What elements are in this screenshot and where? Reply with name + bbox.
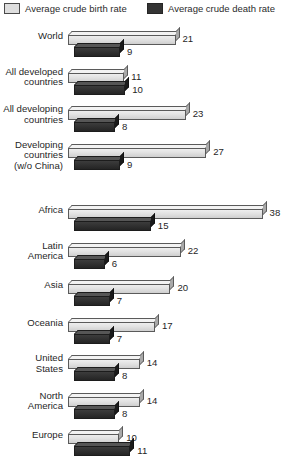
category-label: All developedcountries <box>0 67 63 89</box>
bar-face-face <box>74 259 105 269</box>
chart-legend: Average crude birth rate Average crude d… <box>0 0 289 22</box>
bar-face-face <box>74 85 125 95</box>
value-label-death-rate: 8 <box>122 371 127 381</box>
value-label-birth-rate: 38 <box>270 208 281 218</box>
bar-cap-face <box>206 140 210 154</box>
category-label: LatinAmerica <box>0 241 63 263</box>
bar-cap-face <box>186 102 190 116</box>
bar-chart-plot-area: World219All developedcountries1110All de… <box>0 22 289 424</box>
value-label-birth-rate: 27 <box>213 147 224 157</box>
value-label-birth-rate: 11 <box>131 72 141 82</box>
bar-cap-face <box>115 401 119 415</box>
chart-row: NorthAmerica148 <box>0 392 289 426</box>
chart-row: World219 <box>0 30 289 64</box>
value-label-birth-rate: 23 <box>193 109 204 119</box>
bar-cap-face <box>181 239 185 253</box>
bar-face-face <box>74 409 115 419</box>
category-label: Africa <box>0 205 63 216</box>
bar-face-face <box>74 47 120 57</box>
category-label-line: Africa <box>0 205 63 216</box>
chart-row: Asia207 <box>0 279 289 313</box>
category-label: World <box>0 31 63 42</box>
bar-death-rate <box>74 85 125 95</box>
category-label: Europe <box>0 430 63 441</box>
bar-cap-face <box>120 39 124 53</box>
bar-death-rate <box>74 47 120 57</box>
category-label-line: States <box>0 364 63 375</box>
value-label-birth-rate: 17 <box>162 321 173 331</box>
category-label: Asia <box>0 280 63 291</box>
legend-item-death-rate: Average crude death rate <box>147 3 275 14</box>
chart-row: LatinAmerica226 <box>0 242 289 276</box>
bar-death-rate <box>74 160 120 170</box>
bar-cap-face <box>110 326 114 340</box>
value-label-death-rate: 8 <box>122 409 127 419</box>
bar-cap-face <box>140 389 144 403</box>
chart-row: All developedcountries1110 <box>0 68 289 102</box>
value-label-death-rate: 15 <box>158 221 169 231</box>
legend-swatch-birth-rate-icon <box>4 3 20 14</box>
legend-item-birth-rate: Average crude birth rate <box>4 3 127 14</box>
chart-row: All developingcountries238 <box>0 105 289 139</box>
value-label-death-rate: 9 <box>127 47 132 57</box>
value-label-death-rate: 9 <box>127 160 132 170</box>
bar-death-rate <box>74 371 115 381</box>
category-label: Developingcountries(w/o China) <box>0 140 63 172</box>
bar-cap-face <box>119 426 123 440</box>
bar-cap-face <box>151 213 155 227</box>
value-label-death-rate: 7 <box>117 296 122 306</box>
chart-row: Europe1011 <box>0 429 289 460</box>
chart-row: UnitedStates148 <box>0 354 289 388</box>
bar-face-face <box>74 221 151 231</box>
bar-cap-face <box>140 351 144 365</box>
legend-swatch-death-rate-icon <box>147 3 163 14</box>
category-label-line: Oceania <box>0 318 63 329</box>
value-label-birth-rate: 22 <box>188 246 199 256</box>
category-label-line: Europe <box>0 430 63 441</box>
bar-death-rate <box>74 122 115 132</box>
bar-face-face <box>74 334 110 344</box>
bar-cap-face <box>115 363 119 377</box>
value-label-birth-rate: 21 <box>183 34 194 44</box>
category-label: All developingcountries <box>0 104 63 126</box>
bar-cap-face <box>125 77 129 91</box>
bar-face-face <box>74 446 130 456</box>
value-label-birth-rate: 14 <box>147 396 158 406</box>
bar-face-face <box>74 371 115 381</box>
value-label-death-rate: 7 <box>117 334 122 344</box>
bar-cap-face <box>110 288 114 302</box>
category-label-line: Asia <box>0 280 63 291</box>
chart-row: Africa3815 <box>0 204 289 238</box>
bar-cap-face <box>130 438 134 452</box>
chart-row: Developingcountries(w/o China)279 <box>0 143 289 177</box>
category-label-line: countries <box>0 77 63 88</box>
bar-cap-face <box>120 152 124 166</box>
bar-death-rate <box>74 334 110 344</box>
bar-death-rate <box>74 296 110 306</box>
category-label-line: countries <box>0 115 63 126</box>
legend-label-birth-rate: Average crude birth rate <box>25 3 127 14</box>
category-label: NorthAmerica <box>0 391 63 413</box>
bar-death-rate <box>74 446 130 456</box>
bar-death-rate <box>74 259 105 269</box>
bar-cap-face <box>155 314 159 328</box>
bar-death-rate <box>74 409 115 419</box>
bar-cap-face <box>115 114 119 128</box>
category-label: Oceania <box>0 318 63 329</box>
bar-face-face <box>74 160 120 170</box>
category-label-line: America <box>0 251 63 262</box>
bar-cap-face <box>170 276 174 290</box>
value-label-birth-rate: 14 <box>147 358 158 368</box>
category-label-line: (w/o China) <box>0 161 63 172</box>
bar-cap-face <box>263 201 267 215</box>
category-label-line: America <box>0 401 63 412</box>
bar-face-face <box>74 296 110 306</box>
bar-death-rate <box>74 221 151 231</box>
category-label-line: World <box>0 31 63 42</box>
chart-row: Oceania177 <box>0 317 289 351</box>
value-label-death-rate: 10 <box>132 85 143 95</box>
category-label: UnitedStates <box>0 353 63 375</box>
value-label-death-rate: 8 <box>122 122 127 132</box>
bar-cap-face <box>176 27 180 41</box>
legend-label-death-rate: Average crude death rate <box>168 3 275 14</box>
